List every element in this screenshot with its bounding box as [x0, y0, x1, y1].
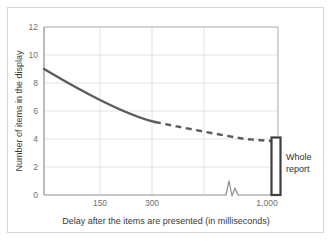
y-axis-title: Number of items in the display — [14, 50, 24, 172]
y-tick-label-2: 2 — [33, 162, 38, 172]
y-tick-label-12: 12 — [29, 22, 39, 32]
whole-report-annotation-line2: report — [286, 164, 310, 174]
y-tick-label-6: 6 — [33, 106, 38, 116]
y-tick-label-8: 8 — [33, 78, 38, 88]
x-tick-label-1000: 1,000 — [256, 198, 278, 208]
y-tick-label-4: 4 — [33, 134, 38, 144]
y-tick-label-0: 0 — [33, 190, 38, 200]
y-tick-label-10: 10 — [29, 50, 39, 60]
line-chart: 12 10 8 6 4 2 0 150 300 1,000 Whole repo… — [0, 0, 333, 242]
whole-report-bar — [272, 138, 281, 196]
chart-figure: 12 10 8 6 4 2 0 150 300 1,000 Whole repo… — [0, 0, 333, 242]
x-tick-label-300: 300 — [145, 198, 159, 208]
x-axis-title: Delay after the items are presented (in … — [62, 216, 270, 226]
x-tick-label-150: 150 — [93, 198, 107, 208]
whole-report-annotation-line1: Whole — [286, 152, 312, 162]
